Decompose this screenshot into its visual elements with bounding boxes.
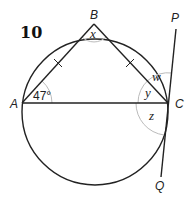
- circle: [22, 39, 168, 185]
- angle-label-w: w: [152, 69, 161, 84]
- point-label-C: C: [175, 97, 184, 111]
- circle-geometry-diagram: 10 A B C P Q 47° x w y z: [0, 0, 193, 200]
- side-BC: [94, 24, 168, 103]
- angle-label-A: 47°: [33, 89, 51, 103]
- point-label-A: A: [9, 97, 18, 111]
- point-label-P: P: [171, 11, 179, 25]
- angle-label-y: y: [143, 85, 151, 100]
- angle-label-z: z: [148, 108, 154, 123]
- problem-number: 10: [20, 23, 42, 42]
- point-label-Q: Q: [155, 179, 164, 193]
- angle-label-x: x: [89, 26, 96, 41]
- point-label-B: B: [90, 8, 98, 22]
